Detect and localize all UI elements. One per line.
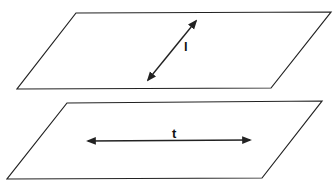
upper-plane bbox=[17, 12, 331, 89]
line-t-arrow bbox=[88, 140, 250, 141]
diagram-canvas bbox=[0, 0, 334, 188]
line-t-label: t bbox=[172, 127, 176, 140]
line-l-arrow bbox=[148, 21, 196, 80]
parallel-planes-diagram: l t bbox=[0, 0, 334, 188]
line-l-label: l bbox=[184, 40, 188, 53]
